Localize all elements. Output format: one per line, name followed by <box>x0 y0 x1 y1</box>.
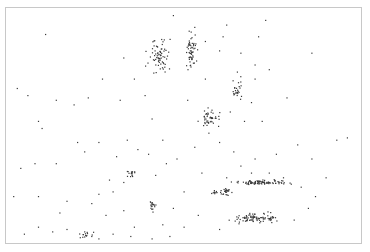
map-dot <box>219 50 220 51</box>
map-dot <box>159 62 160 63</box>
map-dot <box>264 180 265 181</box>
map-dot <box>84 151 85 152</box>
map-dot <box>265 217 266 218</box>
west-south-cluster <box>127 171 136 177</box>
map-dot <box>27 95 28 96</box>
map-dot <box>251 102 252 103</box>
map-dot <box>250 217 251 218</box>
map-dot <box>155 64 156 65</box>
map-dot <box>123 182 124 183</box>
map-dot <box>274 180 275 181</box>
map-dot <box>211 193 212 194</box>
map-dot <box>231 192 232 193</box>
map-dot <box>198 215 199 216</box>
map-dot <box>240 219 241 220</box>
map-dot <box>237 90 238 91</box>
map-dot <box>301 187 302 188</box>
map-dot <box>206 121 207 122</box>
map-dot <box>257 220 258 221</box>
map-dot <box>236 92 237 93</box>
map-dot <box>234 94 235 95</box>
map-dot <box>264 183 265 184</box>
map-dot <box>263 218 264 219</box>
map-dot <box>263 213 264 214</box>
map-dot <box>239 222 240 223</box>
map-dot <box>347 137 348 138</box>
map-dot <box>190 66 191 67</box>
map-dot <box>83 234 84 235</box>
map-dot <box>211 121 212 122</box>
map-dot <box>225 192 226 193</box>
map-dot <box>211 110 212 111</box>
map-dot <box>233 151 234 152</box>
map-dot <box>194 48 195 49</box>
map-dot <box>215 116 216 117</box>
map-dot <box>79 233 80 234</box>
map-dot <box>218 126 219 127</box>
map-dot <box>254 182 255 183</box>
map-dot <box>254 214 255 215</box>
map-dot <box>155 59 156 60</box>
map-dot <box>189 57 190 58</box>
map-dot <box>244 218 245 219</box>
map-dot <box>160 64 161 65</box>
map-dot <box>173 15 174 16</box>
map-dot <box>258 184 259 185</box>
map-dot <box>249 214 250 215</box>
map-dot <box>205 123 206 124</box>
map-dot <box>128 171 129 172</box>
map-dot <box>255 183 256 184</box>
map-dot <box>236 216 237 217</box>
map-dot <box>214 192 215 193</box>
map-dot <box>134 79 135 80</box>
map-dot <box>262 179 263 180</box>
map-dot <box>98 142 99 143</box>
map-dot <box>213 123 214 124</box>
map-dot <box>170 39 171 40</box>
map-dot <box>157 52 158 53</box>
map-dot <box>191 52 192 53</box>
map-dot <box>275 217 276 218</box>
map-dot <box>258 181 259 182</box>
map-dot <box>188 48 189 49</box>
map-dot <box>156 57 157 58</box>
map-dot <box>246 220 247 221</box>
map-dot <box>281 182 282 183</box>
map-dot <box>245 217 246 218</box>
map-dot <box>240 99 241 100</box>
map-dot <box>87 232 88 233</box>
map-dot <box>162 67 163 68</box>
map-dot <box>269 173 270 174</box>
map-dot <box>132 173 133 174</box>
map-dot <box>152 41 153 42</box>
map-dot <box>169 236 170 237</box>
map-dot <box>223 36 224 37</box>
map-dot <box>270 212 271 213</box>
map-dot <box>283 183 284 184</box>
map-dot <box>240 53 241 54</box>
map-dot <box>211 117 212 118</box>
map-dot <box>269 69 270 70</box>
map-dot <box>231 181 232 182</box>
map-dot <box>252 220 253 221</box>
map-dot <box>250 216 251 217</box>
map-dot <box>154 205 155 206</box>
map-dot <box>147 63 148 64</box>
map-dot <box>56 163 57 164</box>
map-dot <box>113 191 114 192</box>
map-dot <box>134 171 135 172</box>
map-dot <box>56 100 57 101</box>
map-dot <box>237 219 238 220</box>
map-dot <box>255 158 256 159</box>
map-dot <box>193 43 194 44</box>
map-dot <box>308 208 309 209</box>
map-dot <box>187 47 188 48</box>
map-dot <box>211 112 212 113</box>
map-dot <box>270 218 271 219</box>
map-dot <box>132 176 133 177</box>
map-dot <box>187 69 188 70</box>
map-dot <box>253 216 254 217</box>
map-dot <box>282 180 283 181</box>
map-dot <box>113 234 114 235</box>
map-dot <box>166 163 167 164</box>
